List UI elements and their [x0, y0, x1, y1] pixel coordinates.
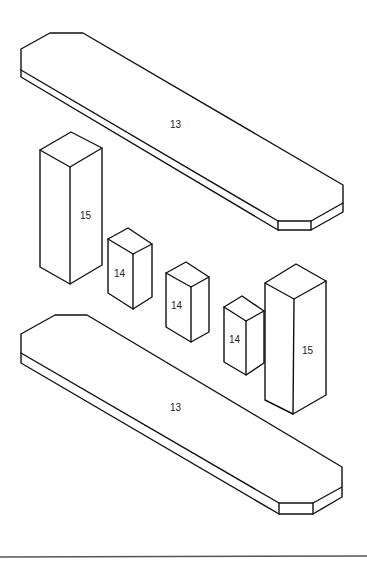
bottom-board-label: 13 — [170, 402, 182, 413]
block-tall-right: 15 — [265, 264, 326, 414]
top-board-label: 13 — [170, 119, 182, 130]
block-small-2-label: 14 — [171, 300, 183, 311]
block-tall-left: 15 — [40, 132, 102, 284]
block-tall-right-label: 15 — [302, 345, 314, 356]
block-small-3: 14 — [224, 296, 264, 375]
exploded-assembly-diagram: 13 15 14 14 14 15 13 — [0, 0, 367, 562]
block-small-3-label: 14 — [229, 334, 241, 345]
page-divider-line — [0, 556, 367, 557]
block-small-1-label: 14 — [114, 268, 126, 279]
block-small-2: 14 — [166, 262, 209, 342]
block-tall-left-label: 15 — [80, 210, 92, 221]
block-small-1: 14 — [108, 228, 152, 309]
